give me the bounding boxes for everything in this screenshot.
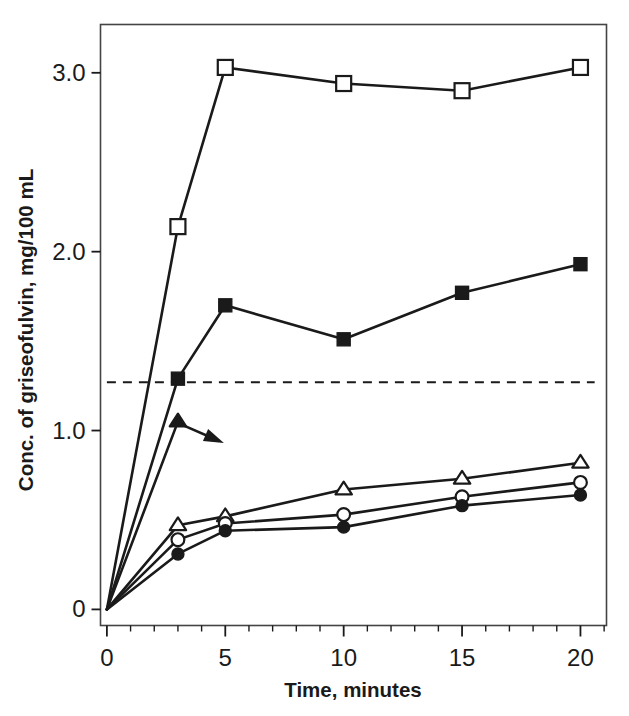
open-square-marker	[455, 83, 470, 98]
open-circle-marker	[172, 533, 185, 546]
x-tick-label: 10	[330, 644, 357, 671]
open-square-marker	[218, 60, 233, 75]
y-tick-label: 2.0	[52, 238, 85, 265]
open-circle-marker	[337, 508, 350, 521]
filled-square-marker	[456, 286, 469, 299]
filled-circle-marker	[338, 521, 350, 533]
x-tick-label: 0	[100, 644, 113, 671]
x-axis-title: Time, minutes	[284, 678, 421, 701]
x-tick-label: 5	[219, 644, 232, 671]
filled-circle-marker	[219, 525, 231, 537]
filled-square-marker	[337, 333, 350, 346]
filled-circle-marker	[172, 548, 184, 560]
x-tick-label: 15	[449, 644, 476, 671]
open-square-marker	[336, 76, 351, 91]
filled-circle-marker	[456, 500, 468, 512]
y-axis-title: Conc. of griseofulvin, mg/100 mL	[14, 169, 37, 491]
filled-square-marker	[574, 258, 587, 271]
open-square-marker	[573, 60, 588, 75]
open-circle-marker	[574, 476, 587, 489]
y-tick-label: 1.0	[52, 417, 85, 444]
filled-circle-marker	[574, 489, 586, 501]
open-square-marker	[170, 219, 185, 234]
x-axis-minor-ticks	[131, 626, 605, 632]
filled-square-marker	[219, 299, 232, 312]
x-tick-label: 20	[567, 644, 594, 671]
y-tick-label: 0	[72, 595, 85, 622]
filled-square-marker	[171, 372, 184, 385]
y-tick-label: 3.0	[52, 59, 85, 86]
griseofulvin-dissolution-chart: 01.02.03.0 05101520 Time, minutes Conc. …	[0, 0, 629, 716]
